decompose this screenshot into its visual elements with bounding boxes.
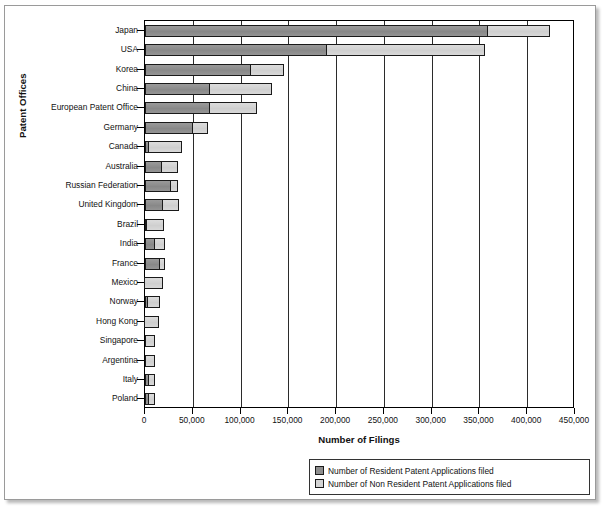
y-axis-tick bbox=[137, 107, 144, 108]
x-axis-title: Number of Filings bbox=[144, 434, 574, 445]
legend-label-nonresident: Number of Non Resident Patent Applicatio… bbox=[328, 479, 511, 489]
y-axis-tick-label: Canada bbox=[12, 141, 138, 151]
bar-row bbox=[145, 25, 575, 37]
bar-segment-resident bbox=[145, 25, 488, 37]
y-axis-tick bbox=[137, 146, 144, 147]
chart-legend: Number of Resident Patent Applications f… bbox=[309, 459, 590, 495]
x-axis-tick bbox=[478, 408, 479, 414]
bar-segment-nonresident bbox=[145, 335, 155, 347]
y-axis-tick-label: Germany bbox=[12, 122, 138, 132]
bar-segment-nonresident bbox=[148, 374, 155, 386]
bar-segment-nonresident bbox=[192, 122, 208, 134]
x-axis-tick-label: 250,000 bbox=[368, 415, 398, 425]
gridline bbox=[193, 21, 194, 407]
bar-row bbox=[145, 296, 575, 308]
y-axis-tick bbox=[137, 127, 144, 128]
bar-segment-nonresident bbox=[162, 199, 179, 211]
bar-row bbox=[145, 44, 575, 56]
gridline bbox=[384, 21, 385, 407]
bar-segment-nonresident bbox=[144, 316, 159, 328]
x-axis-tick bbox=[431, 408, 432, 414]
bar-segment-nonresident bbox=[209, 83, 272, 95]
bar-row bbox=[145, 122, 575, 134]
bar-row bbox=[145, 238, 575, 250]
y-axis-tick-label: Hong Kong bbox=[12, 316, 138, 326]
y-axis-tick-label: China bbox=[12, 83, 138, 93]
bar-segment-nonresident bbox=[209, 102, 257, 114]
bar-segment-nonresident bbox=[170, 180, 178, 192]
gridline bbox=[432, 21, 433, 407]
bar-segment-nonresident bbox=[148, 393, 155, 405]
gridline bbox=[288, 21, 289, 407]
y-axis-tick-label: Argentina bbox=[12, 355, 138, 365]
bar-row bbox=[145, 258, 575, 270]
y-axis-tick bbox=[137, 166, 144, 167]
x-axis-tick bbox=[287, 408, 288, 414]
bar-segment-nonresident bbox=[159, 258, 165, 270]
bar-row bbox=[145, 64, 575, 76]
y-axis-tick-label: European Patent Office bbox=[12, 102, 138, 112]
bar-row bbox=[145, 277, 575, 289]
y-axis-tick bbox=[137, 204, 144, 205]
gridline bbox=[336, 21, 337, 407]
y-axis-tick-label: Norway bbox=[12, 296, 138, 306]
bar-segment-resident bbox=[145, 199, 163, 211]
y-axis-tick bbox=[137, 69, 144, 70]
bar-segment-nonresident bbox=[146, 219, 165, 231]
gridline bbox=[241, 21, 242, 407]
y-axis-tick bbox=[137, 88, 144, 89]
y-axis-tick bbox=[137, 360, 144, 361]
y-axis-tick bbox=[137, 301, 144, 302]
bar-segment-resident bbox=[145, 44, 327, 56]
plot-area bbox=[144, 20, 574, 408]
y-axis-tick-label: Italy bbox=[12, 374, 138, 384]
x-axis-tick bbox=[240, 408, 241, 414]
x-axis-tick bbox=[144, 408, 145, 414]
gridline bbox=[479, 21, 480, 407]
y-axis-tick-label: Mexico bbox=[12, 277, 138, 287]
y-axis-tick-label: Brazil bbox=[12, 219, 138, 229]
legend-item-nonresident: Number of Non Resident Patent Applicatio… bbox=[315, 477, 584, 490]
y-axis-labels: JapanUSAKoreaChinaEuropean Patent Office… bbox=[5, 6, 138, 515]
bar-segment-resident bbox=[145, 122, 193, 134]
y-axis-tick bbox=[137, 321, 144, 322]
y-axis-tick-label: USA bbox=[12, 44, 138, 54]
bar-segment-nonresident bbox=[161, 161, 178, 173]
bar-row bbox=[145, 219, 575, 231]
x-axis-tick-label: 50,000 bbox=[179, 415, 205, 425]
y-axis-tick-label: Australia bbox=[12, 161, 138, 171]
y-axis-tick bbox=[137, 185, 144, 186]
y-axis-tick bbox=[137, 263, 144, 264]
x-axis-tick-label: 100,000 bbox=[224, 415, 254, 425]
x-axis-tick-label: 200,000 bbox=[320, 415, 350, 425]
x-axis-tick-label: 350,000 bbox=[463, 415, 493, 425]
y-axis-tick-label: Russian Federation bbox=[12, 180, 138, 190]
y-axis-tick bbox=[137, 379, 144, 380]
y-axis-tick-label: Singapore bbox=[12, 335, 138, 345]
bar-segment-resident bbox=[145, 102, 210, 114]
chart-panel: Patent Offices JapanUSAKoreaChinaEuropea… bbox=[4, 5, 596, 500]
y-axis-tick-label: India bbox=[12, 238, 138, 248]
bar-row bbox=[145, 199, 575, 211]
bar-segment-nonresident bbox=[147, 296, 160, 308]
y-axis-tick-label: France bbox=[12, 258, 138, 268]
bar-row bbox=[145, 102, 575, 114]
bar-row bbox=[145, 83, 575, 95]
x-axis-tick bbox=[574, 408, 575, 414]
bar-segment-resident bbox=[145, 180, 171, 192]
bar-segment-nonresident bbox=[487, 25, 550, 37]
bar-segment-nonresident bbox=[250, 64, 283, 76]
bar-segment-nonresident bbox=[154, 238, 165, 250]
bar-row bbox=[145, 161, 575, 173]
bar-row bbox=[145, 374, 575, 386]
gridline bbox=[527, 21, 528, 407]
bar-segment-resident bbox=[145, 258, 160, 270]
y-axis-tick bbox=[137, 49, 144, 50]
x-axis-tick bbox=[383, 408, 384, 414]
chart-figure: Patent Offices JapanUSAKoreaChinaEuropea… bbox=[0, 0, 606, 515]
y-axis-tick bbox=[137, 224, 144, 225]
bar-segment-nonresident bbox=[326, 44, 484, 56]
bar-segment-resident bbox=[145, 83, 210, 95]
x-axis-tick-label: 450,000 bbox=[559, 415, 589, 425]
x-axis-tick bbox=[526, 408, 527, 414]
